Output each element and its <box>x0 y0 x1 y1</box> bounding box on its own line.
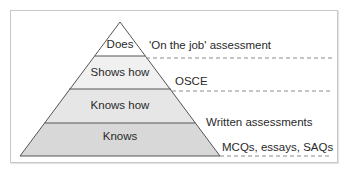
layer-label-shows-how: Shows how <box>91 67 150 79</box>
assessment-label-knows-how: Written assessments <box>206 117 313 129</box>
assessment-label-does: 'On the job' assessment <box>149 40 271 52</box>
assessment-label-shows-how: OSCE <box>175 76 208 88</box>
layer-label-knows: Knows <box>103 131 138 143</box>
layer-label-does: Does <box>107 39 134 51</box>
layer-label-knows-how: Knows how <box>91 100 150 112</box>
assessment-label-knows: MCQs, essays, SAQs <box>222 142 333 154</box>
